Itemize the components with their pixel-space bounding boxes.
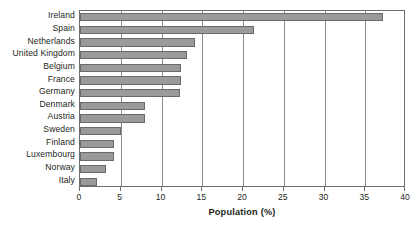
tick-mark	[364, 187, 365, 191]
category-label: Luxembourg	[0, 150, 75, 159]
bar	[80, 152, 114, 160]
x-tick-label: 10	[156, 192, 166, 202]
category-label: Belgium	[0, 62, 75, 71]
tick-mark	[242, 187, 243, 191]
category-label: Germany	[0, 87, 75, 96]
tick-mark	[79, 187, 80, 191]
x-tick-label: 35	[359, 192, 369, 202]
category-label: Finland	[0, 138, 75, 147]
bar	[80, 127, 121, 135]
x-tick-label: 15	[196, 192, 206, 202]
bar	[80, 51, 187, 59]
x-axis-ticks: 0510152025303540	[79, 187, 405, 192]
x-tick-label: 0	[77, 192, 82, 202]
bar-chart-figure: IrelandSpainNetherlandsUnited KingdomBel…	[0, 0, 418, 227]
category-label: Norway	[0, 163, 75, 172]
tick-mark	[283, 187, 284, 191]
category-label: United Kingdom	[0, 49, 75, 58]
x-tick-label: 25	[278, 192, 288, 202]
x-tick-label: 20	[237, 192, 247, 202]
bar	[80, 26, 254, 34]
bar	[80, 89, 180, 97]
x-tick-label: 40	[400, 192, 410, 202]
category-label: Spain	[0, 24, 75, 33]
category-label: Sweden	[0, 125, 75, 134]
bar	[80, 140, 114, 148]
x-tick-label: 30	[319, 192, 329, 202]
x-axis-title: Population (%)	[79, 207, 405, 217]
bar	[80, 76, 181, 84]
bar	[80, 165, 106, 173]
category-label: Italy	[0, 176, 75, 185]
bar	[80, 13, 383, 21]
category-label: Ireland	[0, 11, 75, 20]
tick-mark	[404, 187, 405, 191]
bar	[80, 178, 97, 186]
tick-mark	[201, 187, 202, 191]
category-label: Austria	[0, 112, 75, 121]
tick-mark	[324, 187, 325, 191]
category-axis-labels: IrelandSpainNetherlandsUnited KingdomBel…	[0, 10, 75, 187]
bar	[80, 64, 181, 72]
category-label: France	[0, 75, 75, 84]
x-tick-label: 5	[117, 192, 122, 202]
category-label: Netherlands	[0, 37, 75, 46]
tick-mark	[120, 187, 121, 191]
bar	[80, 114, 145, 122]
tick-mark	[161, 187, 162, 191]
category-label: Denmark	[0, 100, 75, 109]
bar	[80, 38, 195, 46]
plot-area	[79, 10, 405, 187]
bar	[80, 102, 145, 110]
bar-series	[80, 11, 404, 186]
